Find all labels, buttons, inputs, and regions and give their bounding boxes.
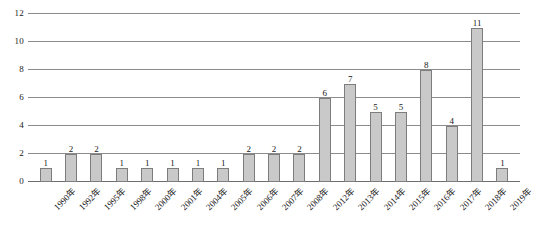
bar-slot: 1 (160, 14, 185, 182)
x-label-slot: 2008年 (287, 184, 312, 239)
bar[interactable]: 1 (116, 168, 128, 182)
bar-slot: 8 (414, 14, 439, 182)
bar-slot: 5 (388, 14, 413, 182)
x-axis-labels: 1990年1992年1995年1998年2000年2001年2004年2005年… (33, 184, 515, 239)
bar-slot: 5 (363, 14, 388, 182)
bar-value-label: 8 (424, 61, 429, 70)
bar[interactable]: 7 (344, 84, 356, 182)
bar-value-label: 1 (196, 159, 201, 168)
x-label-slot: 2004年 (185, 184, 210, 239)
y-axis-tick-label: 0 (19, 177, 24, 186)
bar-value-label: 1 (43, 159, 48, 168)
x-label-slot: 2015年 (388, 184, 413, 239)
bar[interactable]: 2 (268, 154, 280, 182)
bar-value-label: 7 (348, 75, 353, 84)
bar-value-label: 1 (170, 159, 175, 168)
bar-slot: 1 (33, 14, 58, 182)
bar[interactable]: 2 (243, 154, 255, 182)
y-axis-tick-label: 6 (19, 93, 24, 102)
bar-slot: 2 (287, 14, 312, 182)
bar-value-label: 2 (69, 145, 74, 154)
x-label-slot: 2007年 (261, 184, 286, 239)
bar-value-label: 2 (297, 145, 302, 154)
y-axis-tick-label: 2 (19, 149, 24, 158)
y-axis-tick-label: 10 (15, 37, 24, 46)
bar-slot: 1 (135, 14, 160, 182)
bar-value-label: 1 (120, 159, 125, 168)
x-label-slot: 1990年 (33, 184, 58, 239)
bar[interactable]: 8 (420, 70, 432, 182)
bar[interactable]: 1 (40, 168, 52, 182)
x-label-slot: 1995年 (84, 184, 109, 239)
bar[interactable]: 1 (141, 168, 153, 182)
x-label-slot: 2016年 (414, 184, 439, 239)
bar-slot: 1 (490, 14, 515, 182)
bar-value-label: 5 (399, 103, 404, 112)
x-label-slot: 2001年 (160, 184, 185, 239)
x-label-slot: 1992年 (58, 184, 83, 239)
x-label-slot: 2018年 (464, 184, 489, 239)
bar[interactable]: 1 (496, 168, 508, 182)
bar-series: 12211111222675584111 (33, 14, 515, 182)
x-label-slot: 2000年 (135, 184, 160, 239)
bar-value-label: 1 (145, 159, 150, 168)
x-label-slot: 2017年 (439, 184, 464, 239)
bar-slot: 2 (84, 14, 109, 182)
bar-slot: 6 (312, 14, 337, 182)
x-label-slot: 2013年 (338, 184, 363, 239)
bar-slot: 2 (236, 14, 261, 182)
bar[interactable]: 5 (395, 112, 407, 182)
bar-slot: 2 (58, 14, 83, 182)
bar[interactable]: 2 (90, 154, 102, 182)
bar-value-label: 1 (221, 159, 226, 168)
bar-value-label: 2 (246, 145, 251, 154)
x-label-slot: 2006年 (236, 184, 261, 239)
bar-slot: 2 (261, 14, 286, 182)
x-label-slot: 2012年 (312, 184, 337, 239)
bar[interactable]: 2 (293, 154, 305, 182)
x-axis-tick-label: 2019年 (508, 186, 534, 212)
plot-area: 024681012 12211111222675584111 (28, 14, 520, 182)
bar-value-label: 5 (373, 103, 378, 112)
bar-slot: 1 (185, 14, 210, 182)
y-axis-tick-label: 12 (15, 9, 24, 18)
bar-value-label: 2 (94, 145, 99, 154)
x-label-slot: 2005年 (211, 184, 236, 239)
y-axis-tick-label: 4 (19, 121, 24, 130)
x-label-slot: 2014年 (363, 184, 388, 239)
bar[interactable]: 2 (65, 154, 77, 182)
bar[interactable]: 1 (192, 168, 204, 182)
bar-slot: 7 (338, 14, 363, 182)
bar[interactable]: 5 (370, 112, 382, 182)
bar-slot: 1 (109, 14, 134, 182)
bar-value-label: 6 (323, 89, 328, 98)
bar-value-label: 4 (449, 117, 454, 126)
bar-slot: 11 (464, 14, 489, 182)
bar-slot: 4 (439, 14, 464, 182)
bar[interactable]: 4 (446, 126, 458, 182)
x-label-slot: 1998年 (109, 184, 134, 239)
bar-value-label: 1 (500, 159, 505, 168)
bar-slot: 1 (211, 14, 236, 182)
bar[interactable]: 1 (167, 168, 179, 182)
bar[interactable]: 11 (471, 28, 483, 182)
x-label-slot: 2019年 (490, 184, 515, 239)
bar-value-label: 2 (272, 145, 277, 154)
bar[interactable]: 1 (217, 168, 229, 182)
bar-chart: 024681012 12211111222675584111 1990年1992… (0, 0, 536, 239)
bar-value-label: 11 (473, 19, 482, 28)
y-axis-tick-label: 8 (19, 65, 24, 74)
bar[interactable]: 6 (319, 98, 331, 182)
